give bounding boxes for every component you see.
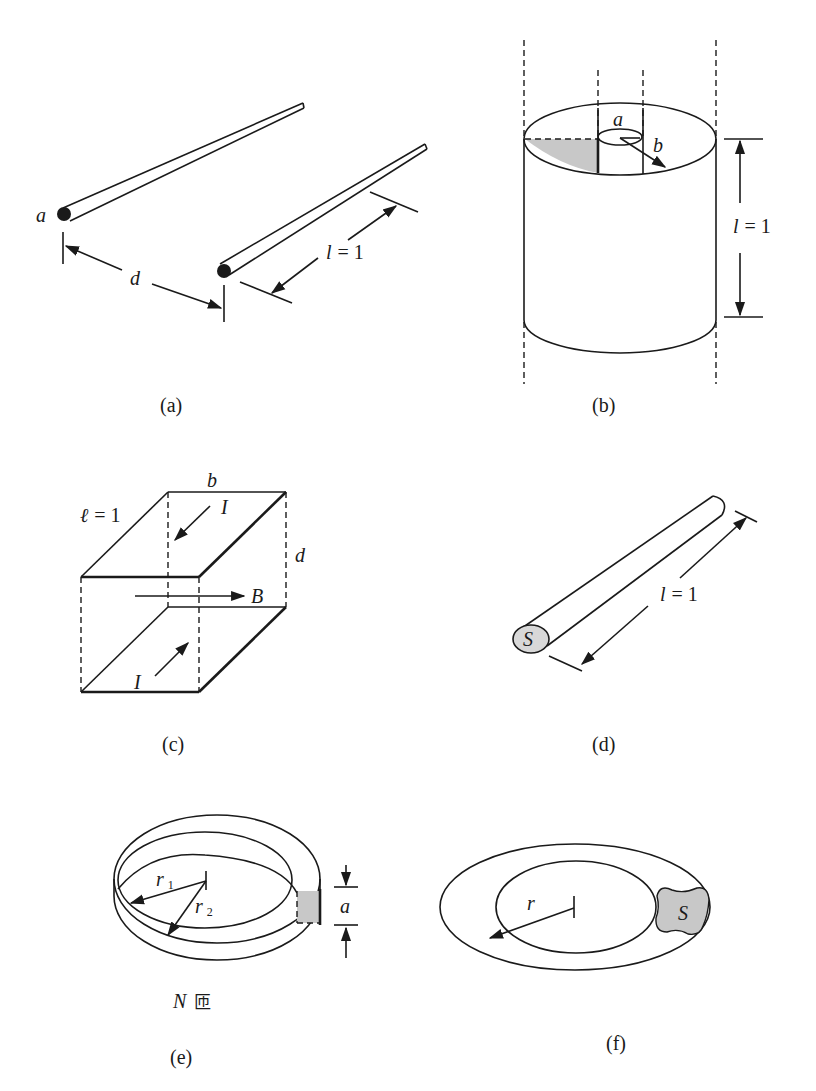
label-a-radius: a	[36, 204, 46, 226]
label-d-separation: d	[130, 267, 141, 289]
label-a-height: a	[340, 895, 350, 917]
caption-f: (f)	[606, 1032, 626, 1055]
label-n-turns: N匝	[172, 990, 211, 1012]
label-a-inner-radius: a	[613, 108, 623, 130]
label-current-top: I	[220, 496, 229, 518]
wire-left	[57, 103, 304, 221]
label-length: ℓ= 1	[80, 504, 121, 526]
label-l-length: l= 1	[733, 215, 771, 237]
label-s: S	[523, 628, 533, 650]
figure-canvas: a d l= 1 (a)	[0, 0, 816, 1091]
label-current-bottom: I	[133, 671, 142, 693]
label-r: r	[527, 892, 535, 914]
panel-d-wire: S l= 1 (d)	[513, 496, 757, 756]
panel-e-toroid: r1 r2 a N匝 (e)	[114, 815, 358, 1069]
caption-d: (d)	[592, 733, 615, 756]
panel-a-two-wires: a d l= 1 (a)	[36, 103, 427, 417]
label-r2: r2	[195, 895, 213, 919]
dimension-l	[549, 511, 757, 671]
wire-right	[217, 144, 427, 278]
label-s: S	[678, 902, 688, 924]
label-d-separation: d	[295, 544, 306, 566]
label-b-outer-radius: b	[653, 134, 663, 156]
physics-figure: a d l= 1 (a)	[0, 0, 816, 1091]
panel-f-toroid: S r (f)	[440, 844, 710, 1055]
panel-b-coaxial: a b l= 1 (b)	[524, 40, 771, 417]
label-field-b: B	[251, 585, 263, 607]
label-b-width: b	[207, 469, 217, 491]
label-l-length: l= 1	[660, 583, 698, 605]
caption-a: (a)	[160, 394, 182, 417]
caption-c: (c)	[162, 733, 184, 756]
panel-c-parallel-plates: ℓ= 1 b d I I B (c)	[80, 469, 306, 756]
label-r1: r1	[156, 868, 174, 892]
caption-b: (b)	[592, 394, 615, 417]
label-l-length: l= 1	[326, 241, 364, 263]
caption-e: (e)	[170, 1046, 192, 1069]
dimension-d	[63, 232, 224, 322]
shaded-section	[297, 891, 320, 923]
